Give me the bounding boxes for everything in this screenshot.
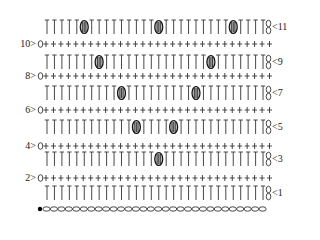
- chain-stitch-icon: [147, 207, 154, 211]
- dc-stitch-icon: [119, 55, 123, 69]
- sc-stitch-icon: [170, 107, 175, 113]
- dc-stitch-icon: [45, 152, 49, 166]
- chain-stitch-icon: [252, 207, 259, 211]
- sc-stitch-icon: [103, 41, 108, 47]
- dc-stitch-icon: [75, 86, 79, 100]
- chain-stitch-icon: [207, 207, 214, 211]
- dc-stitch-icon: [239, 120, 243, 134]
- sc-stitch-icon: [118, 107, 123, 113]
- dc-stitch-icon: [82, 186, 86, 200]
- sc-stitch-icon: [178, 143, 183, 149]
- dc-stitch-icon: [149, 186, 153, 200]
- dc-stitch-icon: [97, 86, 101, 100]
- row-number-label: 8>: [25, 71, 36, 81]
- sc-stitch-icon: [267, 175, 272, 181]
- dc-stitch-icon: [112, 152, 116, 166]
- chain-stitch-icon: [259, 207, 266, 211]
- row-number-label: <3: [272, 154, 283, 164]
- sc-stitch-icon: [81, 143, 86, 149]
- sc-stitch-icon: [230, 73, 235, 79]
- dc-stitch-icon: [119, 20, 123, 34]
- dc-stitch-icon: [157, 86, 161, 100]
- sc-stitch-icon: [125, 73, 130, 79]
- dc-stitch-icon: [224, 152, 228, 166]
- dc-stitch-icon: [52, 20, 56, 34]
- dc-stitch-icon: [231, 86, 235, 100]
- sc-stitch-icon: [215, 73, 220, 79]
- dc-stitch-icon: [75, 55, 79, 69]
- bobble-stitch-icon: [192, 87, 200, 100]
- dc-stitch-icon: [149, 86, 153, 100]
- dc-stitch-icon: [104, 186, 108, 200]
- dc-stitch-icon: [82, 86, 86, 100]
- chain-stitch-icon: [192, 207, 199, 211]
- sc-stitch-icon: [193, 175, 198, 181]
- dc-stitch-icon: [253, 20, 257, 34]
- dc-stitch-icon: [261, 186, 265, 200]
- sc-stitch-icon: [96, 175, 101, 181]
- sc-stitch-icon: [260, 107, 265, 113]
- dc-stitch-icon: [90, 55, 94, 69]
- sc-stitch-icon: [125, 143, 130, 149]
- turning-chain-icon: [266, 62, 271, 69]
- sc-stitch-icon: [200, 175, 205, 181]
- sc-stitch-icon: [140, 41, 145, 47]
- sc-stitch-icon: [215, 143, 220, 149]
- chain-stitch-icon: [132, 207, 139, 211]
- dc-stitch-icon: [67, 20, 71, 34]
- sc-stitch-icon: [252, 175, 257, 181]
- dc-stitch-icon: [60, 20, 64, 34]
- dc-stitch-icon: [67, 186, 71, 200]
- chain-stitch-icon: [95, 207, 102, 211]
- dc-stitch-icon: [246, 152, 250, 166]
- chain-stitch-icon: [80, 207, 87, 211]
- dc-stitch-icon: [164, 86, 168, 100]
- dc-stitch-icon: [239, 152, 243, 166]
- dc-stitch-icon: [97, 20, 101, 34]
- dc-stitch-icon: [224, 120, 228, 134]
- sc-stitch-icon: [163, 175, 168, 181]
- sc-stitch-icon: [111, 73, 116, 79]
- sc-stitch-icon: [178, 73, 183, 79]
- dc-stitch-icon: [82, 120, 86, 134]
- dc-stitch-icon: [201, 86, 205, 100]
- row-number-label: <7: [272, 88, 283, 98]
- dc-stitch-icon: [171, 20, 175, 34]
- chain-stitch-icon: [73, 207, 80, 211]
- sc-stitch-icon: [58, 107, 63, 113]
- bobble-stitch-icon: [118, 87, 126, 100]
- sc-stitch-icon: [96, 41, 101, 47]
- chain-stitch-icon: [162, 207, 169, 211]
- dc-stitch-icon: [157, 186, 161, 200]
- sc-stitch-icon: [267, 41, 272, 47]
- sc-stitch-icon: [155, 175, 160, 181]
- sc-stitch-icon: [44, 107, 49, 113]
- sc-stitch-icon: [222, 175, 227, 181]
- sc-stitch-icon: [66, 41, 71, 47]
- sc-stitch-icon: [58, 73, 63, 79]
- sc-stitch-icon: [260, 41, 265, 47]
- bobble-stitch-icon: [132, 121, 140, 134]
- dc-stitch-icon: [127, 186, 131, 200]
- dc-stitch-icon: [186, 86, 190, 100]
- dc-stitch-icon: [179, 152, 183, 166]
- sc-stitch-icon: [118, 143, 123, 149]
- dc-stitch-icon: [45, 20, 49, 34]
- sc-stitch-icon: [267, 73, 272, 79]
- dc-stitch-icon: [194, 20, 198, 34]
- dc-stitch-icon: [253, 152, 257, 166]
- sc-stitch-icon: [51, 73, 56, 79]
- dc-stitch-icon: [157, 55, 161, 69]
- dc-stitch-icon: [75, 120, 79, 134]
- dc-stitch-icon: [179, 55, 183, 69]
- sc-stitch-icon: [51, 41, 56, 47]
- sc-stitch-icon: [51, 143, 56, 149]
- chain-stitch-icon: [110, 207, 117, 211]
- sc-stitch-icon: [58, 143, 63, 149]
- dc-stitch-icon: [231, 55, 235, 69]
- sc-stitch-icon: [207, 175, 212, 181]
- dc-stitch-icon: [179, 186, 183, 200]
- dc-stitch-icon: [90, 186, 94, 200]
- sc-stitch-icon: [193, 143, 198, 149]
- row-number-label: <9: [272, 57, 283, 67]
